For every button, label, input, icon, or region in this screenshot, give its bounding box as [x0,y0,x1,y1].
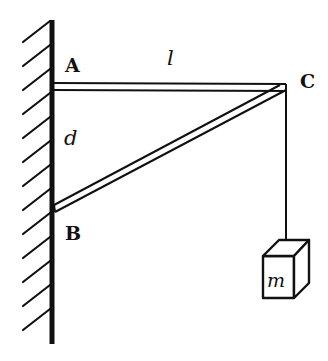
bracket-diagram: A l C d B m [0,0,328,361]
label-c: C [300,70,315,92]
label-d: d [64,126,77,150]
label-a: A [64,54,80,76]
strut-bc [54,85,286,212]
beam-ac [54,83,286,91]
label-l: l [167,46,174,70]
label-b: B [65,222,81,244]
wall-hatching [23,21,50,330]
label-m: m [267,269,285,291]
